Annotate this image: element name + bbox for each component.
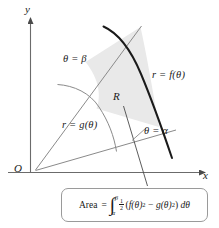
integral-group: ∫ β α [110, 197, 115, 213]
formula-area-word: Area [79, 200, 97, 210]
x-axis-label: x [203, 170, 208, 181]
theta-beta-label: θ = β [63, 54, 87, 65]
y-axis-label: y [25, 4, 30, 15]
formula-minus: − [148, 200, 153, 210]
integral-lower-limit: α [112, 209, 115, 216]
origin-label: O [14, 163, 22, 174]
area-formula-box: Area = ∫ β α 1 2 ( f(θ) 2 − g(θ) 2 ) dθ [61, 188, 208, 222]
one-half-fraction: 1 2 [119, 198, 124, 211]
fraction-denominator: 2 [119, 204, 124, 211]
area-formula: Area = ∫ β α 1 2 ( f(θ) 2 − g(θ) 2 ) dθ [79, 197, 190, 213]
formula-differential: dθ [181, 200, 190, 210]
curve-f-label: r = f(θ) [152, 70, 185, 81]
curve-g-label: r = g(θ) [62, 120, 97, 131]
integral-upper-limit: β [115, 194, 118, 201]
formula-g-theta: g(θ) [156, 200, 172, 210]
formula-f-theta: f(θ) [129, 200, 143, 210]
formula-close-paren: ) [175, 200, 178, 210]
theta-alpha-label: θ = α [144, 126, 168, 137]
polar-area-figure: y x O θ = β θ = α r = f(θ) r = g(θ) R Ar… [0, 0, 219, 228]
formula-f-exponent: 2 [142, 201, 145, 208]
region-label: R [113, 91, 120, 102]
formula-equals: = [101, 200, 106, 210]
